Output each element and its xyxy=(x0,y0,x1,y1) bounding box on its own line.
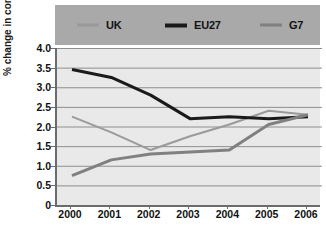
legend-item-uk: UK xyxy=(77,20,122,31)
x-tick-label: 2001 xyxy=(89,208,129,220)
legend-item-g7: G7 xyxy=(260,20,303,31)
x-tick-label: 2003 xyxy=(168,208,208,220)
chart-container: UK EU27 G7 % change in consumer prices 0… xyxy=(0,0,326,239)
chart-legend: UK EU27 G7 xyxy=(55,5,320,45)
legend-swatch-eu27 xyxy=(165,23,187,27)
y-axis-tick-marks xyxy=(0,48,55,205)
legend-swatch-uk xyxy=(77,24,99,27)
x-tick-label: 2006 xyxy=(286,208,326,220)
legend-item-eu27: EU27 xyxy=(165,20,221,31)
x-tick-label: 2004 xyxy=(207,208,247,220)
x-axis-tick-labels: 2000200120022003200420052006 xyxy=(55,208,320,228)
x-tick-label: 2000 xyxy=(50,208,90,220)
plot-area xyxy=(55,48,320,205)
plot-svg xyxy=(57,48,322,205)
x-tick-label: 2002 xyxy=(129,208,169,220)
legend-swatch-g7 xyxy=(260,24,282,27)
legend-label-eu27: EU27 xyxy=(194,20,221,31)
legend-label-uk: UK xyxy=(106,20,122,31)
x-tick-label: 2005 xyxy=(247,208,287,220)
legend-label-g7: G7 xyxy=(289,20,303,31)
